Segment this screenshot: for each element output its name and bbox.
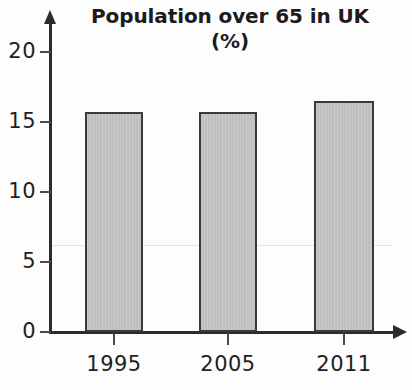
plot-area: 0 5 10 15 20 1995 2005 2011 xyxy=(0,0,412,390)
bar-2011 xyxy=(314,101,374,332)
x-axis-label-2005: 2005 xyxy=(183,352,273,376)
y-axis-tick-10 xyxy=(40,191,51,193)
bar-texture xyxy=(201,114,255,330)
x-axis-label-1995: 1995 xyxy=(69,352,159,376)
y-axis-arrowhead-icon xyxy=(44,10,56,24)
y-axis-tick-15 xyxy=(40,121,51,123)
bar-texture xyxy=(87,114,141,330)
y-axis-label-0: 0 xyxy=(0,319,36,343)
chart-figure: Population over 65 in UK (%) 0 5 10 15 2… xyxy=(0,0,412,390)
x-axis-tick-2011 xyxy=(343,333,345,345)
x-axis-tick-1995 xyxy=(113,333,115,345)
y-axis-tick-5 xyxy=(40,261,51,263)
y-axis-label-5: 5 xyxy=(0,249,36,273)
y-axis-tick-0 xyxy=(40,331,51,333)
bar-texture xyxy=(316,103,372,330)
x-axis-tick-2005 xyxy=(227,333,229,345)
x-axis-arrowhead-icon xyxy=(393,325,407,339)
y-axis-label-15: 15 xyxy=(0,109,36,133)
y-axis-label-20: 20 xyxy=(0,39,36,63)
y-axis-tick-20 xyxy=(40,51,51,53)
x-axis-label-2011: 2011 xyxy=(299,352,389,376)
bar-1995 xyxy=(85,112,143,332)
y-axis-label-10: 10 xyxy=(0,179,36,203)
y-axis-line xyxy=(49,22,52,333)
bar-2005 xyxy=(199,112,257,332)
